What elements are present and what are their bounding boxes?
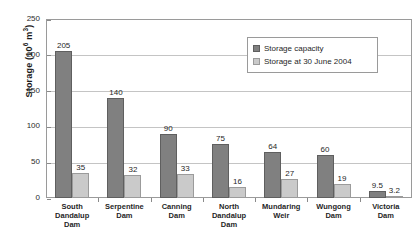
bar-group: 14032 <box>98 19 150 198</box>
x-axis-category-label-line: North <box>203 202 255 211</box>
x-axis-category-label-line: Dam <box>98 211 150 220</box>
bar-value-label-storage-capacity: 140 <box>101 88 130 97</box>
y-axis-tick-label: 50 <box>0 157 40 166</box>
bar-value-label-storage-june-2004: 16 <box>223 177 252 186</box>
y-axis-tick-label: 250 <box>0 14 40 23</box>
bar-value-label-storage-june-2004: 33 <box>171 164 200 173</box>
bar-value-label-storage-june-2004: 32 <box>118 165 147 174</box>
bar-value-label-storage-june-2004: 35 <box>66 163 95 172</box>
x-axis-category-label: NorthDandalupDam <box>203 202 255 230</box>
y-axis-title-unit: m <box>24 32 34 43</box>
x-axis-category-label-line: Weir <box>255 211 307 220</box>
bar-value-label-storage-capacity: 205 <box>49 41 78 50</box>
y-axis-tick-label: 150 <box>0 86 40 95</box>
x-axis-category-label-line: Wungong <box>307 202 359 211</box>
y-axis-title-close: ) <box>24 25 34 28</box>
x-axis-category-label-line: Dam <box>46 220 98 229</box>
bar-storage-june-2004 <box>334 184 351 198</box>
bar-value-label-storage-june-2004: 3.2 <box>380 186 409 195</box>
x-axis-category-label-line: Mundaring <box>255 202 307 211</box>
legend-item-storage-june-2004: Storage at 30 June 2004 <box>253 55 372 68</box>
x-axis-category-label: WungongDam <box>307 202 359 220</box>
bar-storage-capacity <box>107 98 124 198</box>
x-axis-category-label-line: Dam <box>203 220 255 229</box>
y-axis-tick-label: 100 <box>0 121 40 130</box>
y-axis-tick-label: 0 <box>0 193 40 202</box>
bar-value-label-storage-capacity: 90 <box>154 124 183 133</box>
x-axis-category-label: CanningDam <box>151 202 203 220</box>
legend-label-storage-june-2004: Storage at 30 June 2004 <box>264 57 352 66</box>
x-axis-category-label-line: South <box>46 202 98 211</box>
x-axis-category-label-line: Serpentine <box>98 202 150 211</box>
y-axis-tick-mark <box>47 199 51 200</box>
bar-value-label-storage-june-2004: 27 <box>275 169 304 178</box>
bar-storage-capacity <box>55 51 72 198</box>
bar-storage-june-2004 <box>177 174 194 198</box>
bar-chart: Storage (106 m3) 20535140329033751664276… <box>0 0 420 240</box>
bar-value-label-storage-june-2004: 19 <box>328 174 357 183</box>
y-axis-title-exponent-2: 3 <box>22 28 29 32</box>
bar-value-label-storage-capacity: 60 <box>311 145 340 154</box>
bar-group: 9033 <box>151 19 203 198</box>
bar-value-label-storage-capacity: 75 <box>206 134 235 143</box>
x-axis-category-label-line: Canning <box>151 202 203 211</box>
x-axis-category-label: SerpentineDam <box>98 202 150 220</box>
bar-storage-june-2004 <box>229 187 246 198</box>
bar-storage-june-2004 <box>281 179 298 198</box>
x-axis-category-label-line: Dandalup <box>203 211 255 220</box>
x-axis-category-label: VictoriaDam <box>360 202 412 220</box>
x-axis-category-label: MundaringWeir <box>255 202 307 220</box>
bar-storage-june-2004 <box>386 196 403 198</box>
x-axis-category-label-line: Dandalup <box>46 211 98 220</box>
x-axis-category-label-line: Dam <box>307 211 359 220</box>
y-axis-title-exponent: 6 <box>22 42 29 46</box>
bar-storage-capacity <box>212 144 229 198</box>
legend-swatch-storage-capacity <box>253 45 260 52</box>
legend-label-storage-capacity: Storage capacity <box>264 44 324 53</box>
chart-legend: Storage capacity Storage at 30 June 2004 <box>247 37 378 73</box>
x-axis-category-label-line: Dam <box>360 211 412 220</box>
legend-item-storage-capacity: Storage capacity <box>253 42 372 55</box>
y-axis-tick-label: 200 <box>0 50 40 59</box>
x-axis-category-label-line: Victoria <box>360 202 412 211</box>
bar-value-label-storage-capacity: 64 <box>258 142 287 151</box>
x-axis-category-label-line: Dam <box>151 211 203 220</box>
bar-storage-june-2004 <box>124 175 141 198</box>
legend-swatch-storage-june-2004 <box>253 58 260 65</box>
bar-storage-june-2004 <box>72 173 89 198</box>
bar-group: 20535 <box>46 19 98 198</box>
x-axis-category-label: SouthDandalupDam <box>46 202 98 230</box>
